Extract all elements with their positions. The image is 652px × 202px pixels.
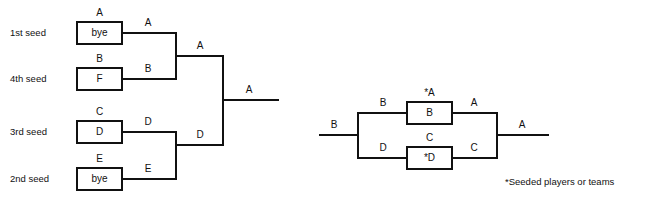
seeded-pair-diagram: B*A*DC BBDACA *Seeded players or teams	[320, 87, 615, 187]
box-4th-value: F	[96, 73, 102, 84]
seed-label-3: 2nd seed	[10, 173, 49, 184]
single-elimination-bracket: 1st seed4th seed3rd seed2nd seed byeAFBD…	[10, 7, 278, 190]
label-r2-a: A	[197, 40, 204, 51]
box-1st-value: bye	[91, 27, 108, 38]
label-r1-b: B	[145, 63, 152, 74]
box-2nd-value: bye	[91, 173, 108, 184]
box-2nd-caption: E	[96, 153, 103, 164]
seeded-box-group: B*A*DC	[407, 87, 452, 169]
label-upper-b: B	[380, 97, 387, 108]
label-output-a: A	[519, 119, 526, 130]
box-3rd-caption: C	[96, 106, 103, 117]
bracket-box-4th: FB	[77, 53, 122, 90]
seed-label-group: 1st seed4th seed3rd seed2nd seed	[10, 27, 49, 184]
seeded-box-seeded-a: B*A	[407, 87, 452, 124]
bracket-line-group	[122, 33, 278, 179]
box-1st-caption: A	[96, 7, 103, 18]
bracket-box-3rd: DC	[77, 106, 122, 143]
seed-label-0: 1st seed	[10, 27, 46, 38]
label-final-a: A	[246, 84, 253, 95]
box-3rd-value: D	[96, 126, 103, 137]
box-seeded-d-value: *D	[424, 152, 435, 163]
box-4th-caption: B	[96, 53, 103, 64]
seeded-footnote: *Seeded players or teams	[505, 176, 615, 187]
bracket-box-group: byeAFBDCbyeE	[77, 7, 122, 190]
box-seeded-a-value: B	[426, 107, 433, 118]
label-lower-d: D	[379, 142, 386, 153]
label-r1-d: D	[144, 116, 151, 127]
bracket-box-1st: byeA	[77, 7, 122, 44]
box-seeded-d-caption: C	[426, 132, 433, 143]
label-upper-a: A	[471, 97, 478, 108]
label-input-b: B	[331, 119, 338, 130]
box-seeded-a-caption: *A	[424, 87, 435, 98]
bracket-box-2nd: byeE	[77, 153, 122, 190]
label-lower-c: C	[470, 142, 477, 153]
label-r2-d: D	[196, 129, 203, 140]
seed-label-1: 4th seed	[10, 73, 46, 84]
seed-label-2: 3rd seed	[10, 126, 47, 137]
bracket-edge-label-group: ABDEADA	[144, 17, 252, 174]
seeded-box-seeded-d: *DC	[407, 132, 452, 169]
tournament-bracket-figure: 1st seed4th seed3rd seed2nd seed byeAFBD…	[0, 0, 652, 202]
bracket-canvas: 1st seed4th seed3rd seed2nd seed byeAFBD…	[0, 0, 652, 202]
label-r1-a: A	[145, 17, 152, 28]
label-r1-e: E	[145, 163, 152, 174]
